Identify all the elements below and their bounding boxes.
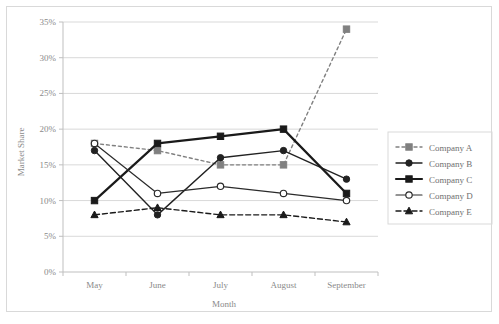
y-tick-label: 5%	[44, 231, 57, 241]
y-tick-label: 15%	[40, 160, 57, 170]
legend-item[interactable]: Company B	[396, 159, 472, 169]
x-tick-label: June	[149, 280, 166, 290]
legend-item[interactable]: Company C	[396, 175, 472, 185]
data-series	[91, 26, 350, 225]
y-tick-label: 35%	[40, 17, 57, 27]
data-point	[91, 197, 97, 203]
data-point	[154, 204, 161, 211]
data-point	[280, 190, 286, 196]
x-tick-label: May	[86, 280, 103, 290]
data-point	[154, 147, 160, 153]
data-point	[343, 197, 349, 203]
legend-marker	[406, 192, 412, 198]
data-point	[217, 162, 223, 168]
legend-marker	[406, 160, 412, 166]
series-company-e	[91, 204, 350, 225]
legend-label: Company B	[429, 159, 472, 169]
chart-figure: 0%5%10%15%20%25%30%35% MayJuneJulyAugust…	[0, 0, 499, 324]
data-point	[154, 190, 160, 196]
data-point	[280, 147, 286, 153]
data-point	[280, 126, 286, 132]
series-line	[95, 143, 347, 200]
x-axis-title: Month	[212, 299, 237, 309]
x-tick-label: July	[213, 280, 229, 290]
y-tick-labels: 0%5%10%15%20%25%30%35%	[40, 17, 57, 277]
y-tick-label: 30%	[40, 53, 57, 63]
data-point	[343, 190, 349, 196]
data-point	[154, 212, 160, 218]
x-tick-label: August	[270, 280, 297, 290]
y-tick-label: 20%	[40, 124, 57, 134]
y-tick-label: 10%	[40, 196, 57, 206]
legend-label: Company E	[429, 207, 472, 217]
data-point	[91, 147, 97, 153]
series-line	[95, 29, 347, 165]
x-tick-label: September	[327, 280, 366, 290]
legend-item[interactable]: Company E	[396, 207, 472, 217]
data-point	[343, 176, 349, 182]
data-point	[217, 183, 223, 189]
legend-item[interactable]: Company D	[396, 191, 473, 201]
legend-marker	[406, 144, 412, 150]
data-point	[343, 26, 349, 32]
y-axis-title: Market Share	[16, 128, 26, 177]
y-tick-label: 25%	[40, 88, 57, 98]
legend-label: Company C	[429, 175, 472, 185]
series-company-d	[91, 140, 349, 204]
data-point	[154, 140, 160, 146]
legend-label: Company D	[429, 191, 473, 201]
legend: Company ACompany BCompany CCompany DComp…	[388, 132, 492, 224]
y-tick-label: 0%	[44, 267, 57, 277]
data-point	[217, 155, 223, 161]
legend-marker	[406, 176, 412, 182]
data-point	[217, 133, 223, 139]
legend-label: Company A	[429, 143, 473, 153]
market-share-line-chart: 0%5%10%15%20%25%30%35% MayJuneJulyAugust…	[0, 0, 499, 324]
legend-item[interactable]: Company A	[396, 143, 473, 153]
data-point	[91, 140, 97, 146]
data-point	[280, 162, 286, 168]
axis-lines	[59, 22, 378, 276]
x-tick-labels: MayJuneJulyAugustSeptember	[86, 280, 366, 290]
gridlines	[63, 22, 378, 236]
series-company-a	[91, 26, 349, 168]
